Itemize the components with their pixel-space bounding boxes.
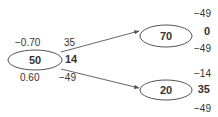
upper-child-value: 70 (151, 30, 181, 42)
root-top-right-label: 35 (64, 37, 75, 48)
lower-child-bottom-label: −49 (189, 103, 211, 114)
lower-child-value: 20 (151, 84, 181, 96)
upper-child-bottom-label: −49 (189, 43, 211, 54)
root-mid-right-label: 14 (65, 54, 77, 65)
root-node-value: 50 (20, 54, 50, 66)
upper-child-top-label: −49 (189, 8, 211, 19)
upper-child-mid-label: 0 (188, 26, 210, 37)
root-bottom-right-label: −49 (59, 72, 76, 83)
root-top-left-label: −0.70 (15, 37, 40, 48)
root-bottom-left-label: 0.60 (20, 72, 39, 83)
lower-child-top-label: −14 (189, 68, 211, 79)
lower-child-mid-label: 35 (188, 84, 210, 95)
